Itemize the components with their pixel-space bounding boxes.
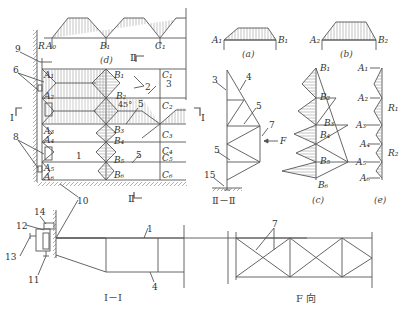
node-C2: C₂	[162, 102, 173, 111]
caption-c: (c)	[312, 196, 324, 205]
caption-a: (a)	[242, 50, 254, 59]
node-b-left: A₂	[310, 36, 320, 45]
node-B3: B₃	[114, 126, 124, 135]
section-mark-II-top: Ⅱ	[130, 53, 137, 63]
callout-6: 6	[13, 66, 19, 75]
section-mark-I-left: Ⅰ	[10, 113, 14, 123]
node-B1-top: B₁	[100, 42, 110, 51]
node-B1: B₁	[114, 71, 124, 80]
e-node-A5: A₅	[356, 158, 366, 167]
node-A1: A₁	[44, 71, 54, 80]
callout-3-II: 3	[212, 76, 218, 85]
node-A2: A₂	[44, 92, 54, 101]
member-1: 1	[76, 152, 82, 161]
callout-5-II-b: 5	[214, 146, 220, 155]
caption-II-II: Ⅱ－Ⅱ	[212, 196, 236, 206]
node-A6: A₆	[44, 173, 54, 182]
callout-4: 4	[152, 283, 158, 292]
load-diagram-a	[224, 28, 276, 50]
diagram-lines	[0, 0, 409, 317]
e-node-A1: A₁	[358, 64, 368, 73]
caption-F-view: F 向	[296, 294, 316, 304]
caption-e: (e)	[374, 196, 386, 205]
callout-2: 2	[145, 83, 151, 92]
caption-I-I: Ⅰ－Ⅰ	[104, 293, 122, 303]
reaction-R1: R₁	[388, 104, 398, 113]
node-B6: B₆	[114, 171, 124, 180]
node-b-right: B₂	[378, 36, 388, 45]
c-node-B3: B₃	[324, 119, 334, 128]
reaction-R2: R₂	[388, 149, 398, 158]
node-A4: A₄	[44, 136, 54, 145]
diagram-e	[366, 68, 382, 180]
section-II-II	[212, 70, 278, 191]
callout-12: 12	[16, 222, 27, 231]
load-diagram-b	[322, 22, 376, 50]
caption-b: (b)	[340, 50, 353, 59]
callout-15: 15	[204, 171, 215, 180]
e-node-A3: A₃	[356, 121, 366, 130]
e-node-A6: A₆	[360, 174, 370, 183]
force-F: F	[280, 137, 286, 146]
section-mark-I-right: Ⅰ	[201, 113, 205, 123]
c-node-B5: B₅	[320, 157, 330, 166]
callout-5-II-a: 5	[256, 102, 262, 111]
callout-9: 9	[15, 45, 21, 54]
callout-1: 1	[147, 225, 153, 234]
section-I-I	[30, 210, 307, 258]
node-C6: C₆	[162, 171, 173, 180]
reaction-R: R	[38, 42, 45, 51]
callout-13: 13	[5, 253, 16, 262]
bracing-diagram: R A₀ B₁ C₁ (d) 9 6 8 2 3 5 5 10 Ⅰ Ⅰ Ⅱ Ⅱ …	[0, 0, 409, 317]
section-mark-II-bottom: Ⅱ	[128, 194, 135, 204]
callout-7-II: 7	[269, 121, 275, 130]
caption-d: (d)	[100, 56, 113, 65]
node-B4: B₄	[114, 137, 124, 146]
callout-4-II: 4	[246, 73, 252, 82]
callout-10: 10	[77, 197, 88, 206]
node-A0: A₀	[46, 42, 56, 51]
callout-14: 14	[34, 208, 45, 217]
c-node-B1: B₁	[320, 64, 330, 73]
callout-7-F: 7	[272, 220, 278, 229]
callout-11: 11	[28, 276, 39, 285]
view-F	[228, 228, 372, 288]
callout-5b: 5	[136, 151, 142, 160]
node-B2: B₂	[116, 92, 126, 101]
callout-3: 3	[166, 80, 172, 89]
node-a-right: B₁	[278, 36, 288, 45]
node-C1: C₁	[162, 71, 173, 80]
c-node-B2: B₂	[320, 93, 330, 102]
callout-5a: 5	[138, 100, 144, 109]
angle-45: 45°	[118, 101, 132, 109]
e-node-A2: A₂	[358, 94, 368, 103]
c-node-B4: B₄	[320, 131, 330, 140]
c-node-B6: B₆	[318, 181, 328, 190]
node-a-left: A₁	[212, 36, 222, 45]
node-C3: C₃	[162, 131, 173, 140]
callout-8: 8	[13, 133, 19, 142]
node-C1-top: C₁	[155, 42, 166, 51]
e-node-A4: A₄	[360, 140, 370, 149]
node-B5: B₅	[114, 156, 124, 165]
node-C5: C₅	[162, 154, 173, 163]
